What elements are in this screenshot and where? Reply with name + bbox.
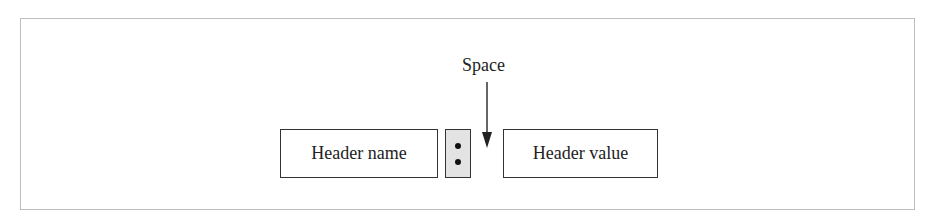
- colon-dot-top: [455, 143, 461, 149]
- header-value-label: Header value: [533, 143, 628, 164]
- colon-box: [445, 129, 471, 178]
- header-name-box: Header name: [280, 129, 438, 178]
- colon-dot-bottom: [455, 159, 461, 165]
- header-value-box: Header value: [503, 129, 658, 178]
- space-arrow-icon: [478, 82, 496, 148]
- space-label: Space: [462, 55, 505, 76]
- diagram-frame: [20, 18, 915, 210]
- header-name-label: Header name: [311, 143, 406, 164]
